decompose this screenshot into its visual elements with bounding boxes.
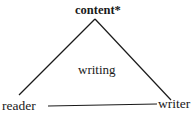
edge-reader-writer (48, 104, 157, 106)
node-reader-label: reader (2, 99, 36, 113)
edge-content-reader (19, 19, 95, 95)
triangle-diagram: content* writing reader writer (0, 0, 196, 120)
node-content-label: content* (75, 4, 121, 17)
node-writer-label: writer (158, 97, 190, 111)
center-writing-label: writing (78, 63, 116, 76)
edge-content-writer (95, 19, 171, 100)
